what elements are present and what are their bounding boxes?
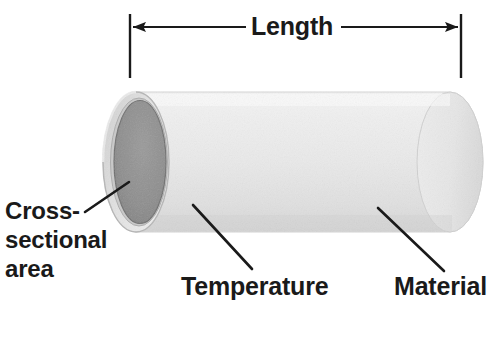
cylinder-group [103, 92, 483, 232]
cross-section-face [114, 101, 166, 224]
temperature-label: Temperature [181, 274, 328, 299]
cross-sectional-area-line-3: area [5, 255, 54, 282]
cross-sectional-area-line-2: sectional [5, 226, 107, 253]
material-label: Material [394, 274, 487, 299]
length-label: Length [251, 14, 333, 39]
cross-sectional-area-line-1: Cross- [5, 197, 80, 224]
cross-sectional-area-label: Cross-sectionalarea [5, 196, 107, 283]
diagram-canvas: Length Cross-sectionalarea Temperature M… [0, 0, 501, 345]
cylinder-right-cap [417, 92, 483, 232]
